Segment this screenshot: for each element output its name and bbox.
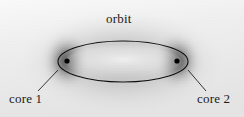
orbit-interior-highlight bbox=[65, 45, 181, 79]
core-2-nucleus-dot bbox=[174, 58, 179, 63]
core-1-nucleus-dot bbox=[64, 58, 69, 63]
orbit-label: orbit bbox=[106, 12, 132, 26]
core-2-label: core 2 bbox=[197, 92, 230, 106]
orbit-diagram-figure: orbit core 1 core 2 bbox=[0, 0, 244, 117]
core-1-label: core 1 bbox=[9, 92, 42, 106]
